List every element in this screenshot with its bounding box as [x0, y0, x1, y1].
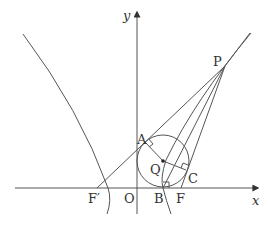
- center-point-Q: [161, 159, 165, 163]
- label-Q: Q: [150, 162, 161, 177]
- hyperbola-right-branch: [162, 33, 251, 214]
- label-y-axis: y: [122, 8, 131, 23]
- right-angle-mark-C: [181, 163, 188, 168]
- hyperbola-left-branch: [23, 34, 110, 214]
- label-C: C: [188, 171, 198, 186]
- hyperbola-diagram: P A Q C B F F′ O x y: [0, 0, 269, 228]
- line-P-B: [163, 66, 225, 188]
- right-angle-mark-A: [149, 139, 153, 147]
- label-P: P: [213, 54, 222, 69]
- line-tail-P: [225, 33, 250, 66]
- line-P-F: [181, 66, 225, 188]
- label-F-prime: F′: [88, 191, 100, 206]
- label-F: F: [176, 191, 185, 206]
- radius-QA: [145, 142, 163, 161]
- label-B: B: [154, 191, 164, 206]
- label-A: A: [136, 132, 147, 147]
- label-origin: O: [124, 191, 135, 206]
- label-x-axis: x: [252, 193, 260, 208]
- radius-QC: [163, 161, 186, 170]
- line-P-Fprime: [97, 66, 225, 188]
